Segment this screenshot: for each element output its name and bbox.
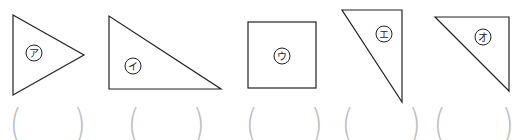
bracket-close-5: ) [502,104,513,140]
bracket-open-2: ( [128,104,140,140]
label-u: ウ [277,51,287,62]
bracket-close-1: ) [74,104,86,140]
bracket-close-4: ) [409,104,421,140]
bracket-open-3: ( [246,104,258,140]
bracket-open-4: ( [342,104,354,140]
label-i: イ [128,61,138,72]
shape-o-triangle [435,17,509,91]
label-o: オ [478,32,488,43]
label-a: ア [29,48,39,59]
shape-e-triangle [342,10,402,102]
shape-i-triangle [109,16,221,89]
bracket-close-2: ) [193,104,205,140]
bracket-close-3: ) [311,104,323,140]
shape-a-triangle [13,15,84,95]
bracket-open-1: ( [10,104,22,140]
bracket-open-5: ( [434,104,446,140]
label-e: エ [379,29,389,40]
